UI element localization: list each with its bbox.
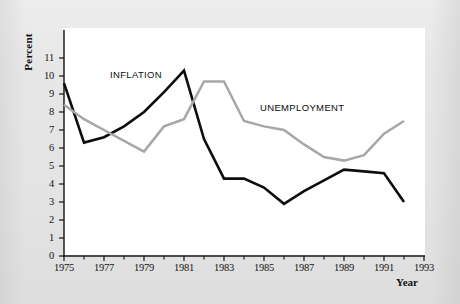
axis-spines	[64, 30, 425, 256]
chart-svg	[0, 0, 460, 304]
axes-group	[59, 30, 425, 261]
chart-screenshot: Percent Year 01234567891011 197519771979…	[0, 0, 460, 304]
data-series-group	[64, 71, 404, 204]
series-line-unemployment	[64, 81, 404, 160]
